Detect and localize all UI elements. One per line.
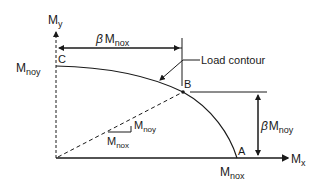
load-contour-leader bbox=[160, 60, 200, 80]
slope-denominator: Mnox bbox=[107, 135, 129, 150]
x-axis-label: Mx bbox=[291, 152, 306, 168]
slope-numerator: Mnoy bbox=[134, 119, 156, 134]
point-a-label: A bbox=[238, 145, 246, 157]
point-b-label: B bbox=[184, 78, 191, 90]
load-contour-label: Load contour bbox=[201, 54, 266, 66]
y-axis-label: My bbox=[48, 13, 63, 29]
load-contour-diagram: My Mx C B A Mnoy Mnox βMnox βMnoy Load c… bbox=[0, 0, 321, 191]
point-c-label: C bbox=[58, 53, 66, 65]
point-b-marker bbox=[181, 90, 185, 94]
mnoy-axis-label: Mnoy bbox=[16, 61, 41, 77]
beta-mnoy-label: βMnoy bbox=[260, 119, 294, 135]
mnox-axis-label: Mnox bbox=[220, 165, 245, 181]
beta-mnox-label: βMnox bbox=[95, 32, 130, 48]
